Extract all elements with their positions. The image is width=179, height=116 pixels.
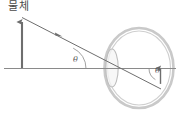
theta-right-label: θ [155,67,160,75]
ray-direction-arrowhead [55,33,63,37]
diagram-canvas [0,0,179,116]
theta-left-label: θ [73,56,78,64]
object-label: 물체 [8,0,29,13]
optics-ray-diagram: 물체 θ θ [0,0,179,116]
